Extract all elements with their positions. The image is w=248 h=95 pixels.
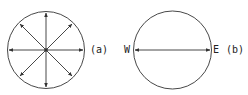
label-east: E (213, 45, 219, 55)
label-west: W (124, 45, 130, 55)
label-a: (a) (90, 45, 108, 55)
circle-b (134, 11, 212, 89)
label-b: (b) (226, 45, 244, 55)
circle-a (8, 12, 85, 89)
